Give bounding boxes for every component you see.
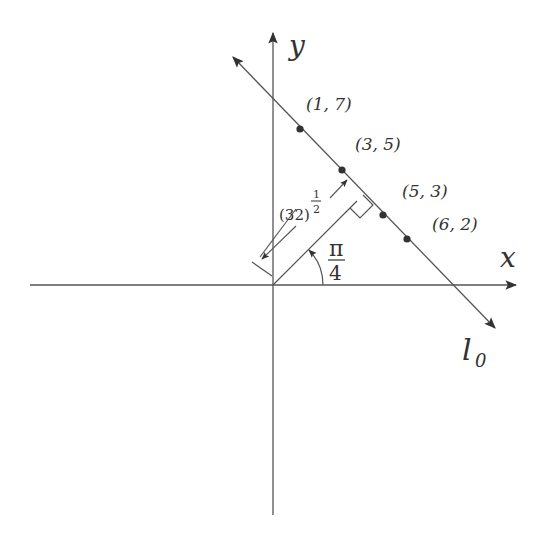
distance-exp-num: 1 [313, 188, 320, 201]
line-label-main: l [462, 332, 472, 367]
diagram-svg: y x (1, 7) (3, 5) (5, 3) (6, 2) (32) 1 2… [0, 0, 546, 548]
angle-num: π [329, 236, 343, 261]
point-label-6-2: (6, 2) [432, 214, 478, 234]
line-label-sub: 0 [475, 350, 486, 371]
diagram-canvas: y x (1, 7) (3, 5) (5, 3) (6, 2) (32) 1 2… [0, 0, 546, 548]
line-l0 [233, 57, 495, 328]
point-label-3-5: (3, 5) [355, 134, 401, 154]
point-label-1-7: (1, 7) [306, 94, 352, 114]
point-label-5-3: (5, 3) [402, 181, 448, 201]
point-5-3 [379, 211, 386, 218]
angle-arc [309, 250, 323, 285]
point-3-5 [338, 166, 345, 173]
point-1-7 [296, 125, 303, 132]
y-axis-label: y [287, 29, 306, 62]
angle-den: 4 [329, 261, 342, 285]
x-axis-label: x [500, 241, 516, 274]
distance-exp-den: 2 [313, 203, 320, 216]
point-6-2 [403, 235, 410, 242]
distance-base: (32) [279, 206, 310, 224]
